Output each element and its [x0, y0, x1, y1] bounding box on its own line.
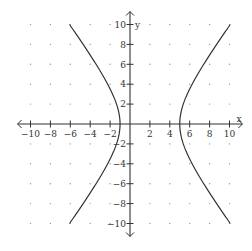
grid-dot — [109, 203, 110, 204]
grid-dot — [70, 163, 71, 164]
grid-dot — [30, 203, 31, 204]
grid-dot — [30, 183, 31, 184]
grid-dot — [149, 24, 150, 25]
y-tick-label: 4 — [120, 79, 126, 89]
grid-dot — [189, 44, 190, 45]
x-tick-label: 4 — [167, 129, 173, 139]
grid-dot — [149, 203, 150, 204]
grid-dot — [50, 64, 51, 65]
grid-dot — [30, 143, 31, 144]
grid-dot — [90, 103, 91, 104]
grid-dot — [189, 163, 190, 164]
grid-dot — [109, 64, 110, 65]
grid-dot — [70, 203, 71, 204]
grid-dot — [209, 64, 210, 65]
grid-dot — [209, 223, 210, 224]
grid-dot — [90, 163, 91, 164]
grid-dot — [50, 84, 51, 85]
grid-dot — [30, 84, 31, 85]
y-tick-label: 2 — [120, 99, 126, 109]
grid-dot — [30, 163, 31, 164]
grid-dot — [30, 103, 31, 104]
y-tick-label: −6 — [113, 179, 127, 189]
grid-dot — [149, 163, 150, 164]
grid-dot — [229, 103, 230, 104]
grid-dot — [109, 183, 110, 184]
grid-dot — [149, 64, 150, 65]
y-tick-label: −8 — [113, 199, 127, 209]
grid-dot — [90, 84, 91, 85]
axes — [18, 12, 243, 237]
grid-dot — [90, 24, 91, 25]
grid-dot — [70, 103, 71, 104]
grid-dot — [50, 203, 51, 204]
grid-dot — [229, 84, 230, 85]
grid-dot — [50, 223, 51, 224]
grid-dot — [189, 223, 190, 224]
x-tick-label: −8 — [44, 129, 58, 139]
x-tick-label: 8 — [207, 129, 213, 139]
grid-dot — [149, 143, 150, 144]
grid-dot — [169, 84, 170, 85]
grid-dot — [169, 24, 170, 25]
x-tick-label: 10 — [224, 129, 236, 139]
grid-dot — [229, 183, 230, 184]
grid-dot — [169, 64, 170, 65]
grid-dot — [70, 143, 71, 144]
grid-dot — [169, 203, 170, 204]
grid-dot — [229, 143, 230, 144]
grid-dot — [229, 64, 230, 65]
grid-dot — [189, 143, 190, 144]
y-axis-label: y — [134, 20, 141, 30]
grid-dot — [149, 183, 150, 184]
grid-dot — [90, 203, 91, 204]
x-tick-label: 2 — [147, 129, 153, 139]
grid-dot — [50, 143, 51, 144]
grid-dot — [169, 44, 170, 45]
grid-dot — [189, 64, 190, 65]
grid-dot — [30, 44, 31, 45]
grid-dot — [209, 44, 210, 45]
grid-dot — [169, 183, 170, 184]
grid-dot — [30, 64, 31, 65]
y-tick-label: 10 — [115, 20, 127, 30]
x-axis-label: x — [237, 114, 242, 124]
grid-dot — [189, 183, 190, 184]
grid-dot — [189, 84, 190, 85]
grid-dot — [189, 203, 190, 204]
grid-dot — [169, 223, 170, 224]
grid-dot — [209, 203, 210, 204]
grid-dot — [50, 163, 51, 164]
grid-dot — [209, 84, 210, 85]
grid-dot — [50, 183, 51, 184]
grid-dot — [209, 183, 210, 184]
x-tick-label: −10 — [21, 129, 40, 139]
grid-dot — [70, 44, 71, 45]
grid-dot — [109, 84, 110, 85]
grid-dot — [109, 24, 110, 25]
grid-dot — [229, 44, 230, 45]
grid-dot — [50, 103, 51, 104]
y-tick-label: −10 — [107, 219, 126, 229]
grid-dot — [169, 163, 170, 164]
y-tick-label: 8 — [120, 40, 126, 50]
grid-dot — [70, 64, 71, 65]
grid-dot — [90, 44, 91, 45]
grid-dot — [50, 44, 51, 45]
grid-dot — [169, 103, 170, 104]
grid-dot — [209, 103, 210, 104]
y-tick-label: −4 — [113, 159, 127, 169]
x-tick-label: −2 — [103, 129, 116, 139]
grid-dot — [70, 84, 71, 85]
x-tick-label: 6 — [187, 129, 193, 139]
grid-dot — [109, 163, 110, 164]
grid-dot — [149, 44, 150, 45]
grid-dot — [90, 64, 91, 65]
grid-dot — [209, 163, 210, 164]
grid-dot — [169, 143, 170, 144]
grid-dot — [189, 103, 190, 104]
coordinate-plane: −10−8−6−4−2246810108642−2−4−6−8−10 x y — [0, 0, 252, 251]
grid-dot — [149, 223, 150, 224]
grid-dot — [90, 143, 91, 144]
x-tick-label: −6 — [64, 129, 78, 139]
